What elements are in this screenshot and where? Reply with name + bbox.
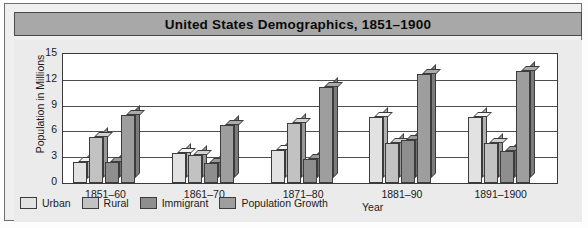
bar [516,71,530,183]
bar [385,143,399,183]
bar-front-face [500,151,514,183]
bar-front-face [401,140,415,183]
figure-frame: United States Demographics, 1851–1900 Po… [4,3,582,221]
legend-item: Urban [20,197,71,209]
y-axis-tick-label: 15 [31,46,57,58]
bar [369,117,383,183]
x-axis-tick-label: 1881–90 [357,188,447,200]
bar-front-face [220,125,234,183]
bar-front-face [121,115,135,183]
legend-swatch [140,197,157,209]
chart-legend: UrbanRuralImmigrantPopulation Growth [20,197,339,209]
bar [287,123,301,183]
y-axis-tick-label: 3 [31,149,57,161]
plot-area [62,53,558,184]
bar [73,162,87,184]
chart-panel: Population in Millions 03691215 1851–601… [14,40,582,222]
chart-title-bar: United States Demographics, 1851–1900 [14,12,582,36]
legend-item: Population Growth [219,197,327,209]
bar [271,150,285,183]
bar [172,153,186,183]
bar-front-face [468,117,482,183]
chart-title: United States Demographics, 1851–1900 [165,17,431,32]
bar [500,151,514,183]
legend-label: Urban [42,197,71,209]
bar-front-face [303,159,317,183]
gridline [63,80,557,81]
y-axis-tick-label: 6 [31,123,57,135]
bar [417,74,431,183]
bar [89,137,103,183]
bar-front-face [188,155,202,183]
bar-side-face [135,105,140,178]
bar [121,115,135,183]
x-axis-title: Year [362,201,383,213]
bar-front-face [204,163,218,183]
x-axis-tick-label: 1891–1900 [456,188,546,200]
bar-side-face [333,77,338,178]
y-axis-tick-label: 0 [31,175,57,187]
bar [303,159,317,183]
bar [484,143,498,183]
bar-front-face [484,143,498,183]
legend-item: Immigrant [140,197,209,209]
bar [319,87,333,183]
bar [188,155,202,183]
bar-front-face [287,123,301,183]
legend-label: Immigrant [162,197,209,209]
legend-label: Rural [104,197,129,209]
bar-front-face [73,162,87,184]
legend-swatch [219,197,236,209]
bar [105,162,119,183]
bar [220,125,234,183]
bar-front-face [89,137,103,183]
bar [204,163,218,183]
bar-front-face [369,117,383,183]
bar-front-face [417,74,431,183]
chart-figure: United States Demographics, 1851–1900 Po… [0,0,588,228]
legend-swatch [20,197,37,209]
bar-front-face [319,87,333,183]
bar-front-face [105,162,119,183]
bar-front-face [385,143,399,183]
bar [401,140,415,183]
bar-side-face [431,64,436,178]
legend-label: Population Growth [241,197,327,209]
bar-side-face [530,61,535,178]
legend-swatch [82,197,99,209]
bar [468,117,482,183]
legend-item: Rural [82,197,129,209]
bar-front-face [172,153,186,183]
bar-front-face [516,71,530,183]
y-axis-tick-label: 12 [31,72,57,84]
bar-front-face [271,150,285,183]
y-axis-tick-label: 9 [31,98,57,110]
